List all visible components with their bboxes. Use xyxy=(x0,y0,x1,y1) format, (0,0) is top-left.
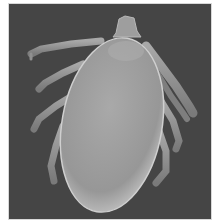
micrograph-frame xyxy=(8,3,212,220)
scutum-highlight xyxy=(108,41,144,61)
tick-micrograph xyxy=(9,4,212,220)
